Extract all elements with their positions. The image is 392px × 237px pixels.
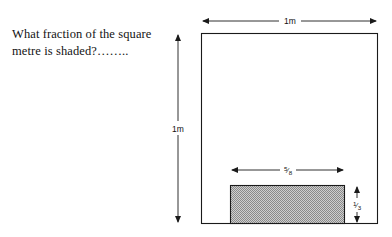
top-dimension-label: 1m	[284, 16, 296, 26]
inner-width-denominator: 8	[289, 169, 293, 176]
square-metre-diagram: 1m 1m 5⁄8 1⁄3	[0, 0, 392, 237]
inner-height-denominator: 3	[358, 204, 362, 211]
left-dimension-label: 1m	[172, 124, 184, 134]
shaded-rectangle	[231, 186, 345, 224]
diagram-svg: 1m 1m 5⁄8 1⁄3	[0, 0, 392, 237]
